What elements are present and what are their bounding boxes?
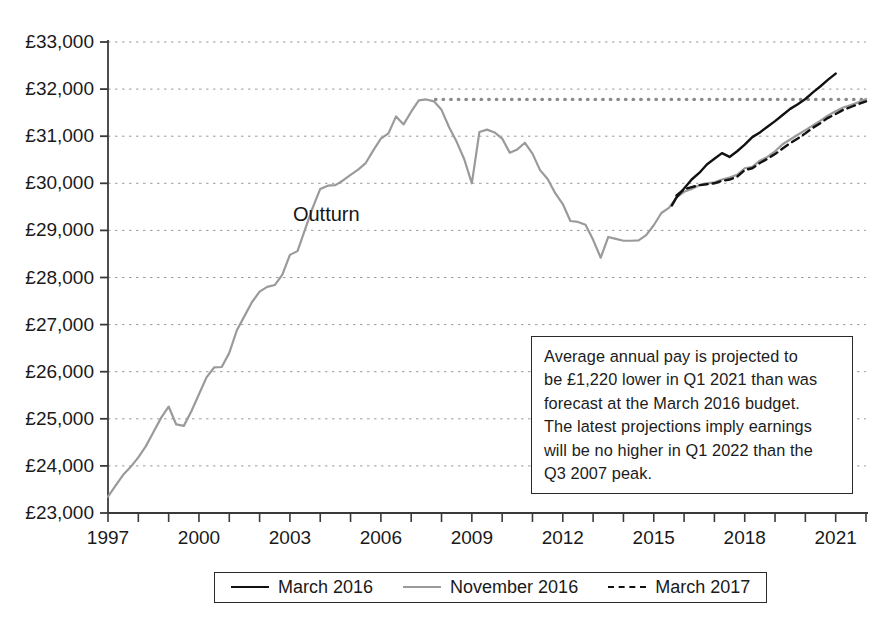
series-line-march-2017 — [677, 101, 867, 195]
y-axis-tick-label: £23,000 — [25, 502, 94, 523]
legend-line-swatch-dashed — [608, 586, 646, 588]
x-axis-tick-labels: 199720002003200620092012201520182021 — [87, 527, 857, 548]
x-axis-ticks — [108, 513, 866, 522]
y-axis-tick-label: £27,000 — [25, 314, 94, 335]
callout-line: be £1,220 lower in Q1 2021 than was — [544, 368, 842, 391]
legend-item-november-2016[interactable]: November 2016 — [403, 578, 578, 596]
legend-item-march-2017[interactable]: March 2017 — [608, 578, 750, 596]
callout-line: Average annual pay is projected to — [544, 345, 842, 368]
legend-line-swatch-solid-black — [231, 586, 269, 588]
y-axis-tick-label: £33,000 — [25, 31, 94, 52]
legend-item-march-2016[interactable]: March 2016 — [231, 578, 373, 596]
y-axis-tick-label: £32,000 — [25, 78, 94, 99]
callout-line: Q3 2007 peak. — [544, 462, 842, 485]
y-axis-tick-label: £25,000 — [25, 408, 94, 429]
legend-line-swatch-solid-gray — [403, 586, 441, 588]
x-axis-tick-label: 1997 — [87, 527, 129, 548]
x-axis-tick-label: 2018 — [724, 527, 766, 548]
chart-legend: March 2016 November 2016 March 2017 — [214, 572, 767, 603]
legend-label: March 2016 — [278, 578, 373, 596]
y-axis-tick-label: £24,000 — [25, 455, 94, 476]
x-axis-tick-label: 2021 — [815, 527, 857, 548]
outturn-label: Outturn — [293, 203, 360, 225]
outturn-annotation: Outturn — [293, 203, 360, 225]
x-axis-tick-label: 2015 — [633, 527, 675, 548]
x-axis-tick-label: 2006 — [360, 527, 402, 548]
x-axis-tick-label: 2000 — [178, 527, 220, 548]
y-axis-tick-label: £30,000 — [25, 172, 94, 193]
projection-callout-box: Average annual pay is projected to be £1… — [531, 336, 853, 494]
y-axis-tick-label: £29,000 — [25, 219, 94, 240]
callout-line: The latest projections imply earnings — [544, 415, 842, 438]
y-axis-tick-label: £31,000 — [25, 125, 94, 146]
chart-container: £33,000£32,000£31,000£30,000£29,000£28,0… — [0, 0, 892, 631]
x-axis-tick-label: 2009 — [451, 527, 493, 548]
x-axis-tick-label: 2012 — [542, 527, 584, 548]
line-chart-plot: £33,000£32,000£31,000£30,000£29,000£28,0… — [0, 0, 892, 631]
y-axis-tick-label: £26,000 — [25, 361, 94, 382]
x-axis-tick-label: 2003 — [269, 527, 311, 548]
callout-line: forecast at the March 2016 budget. — [544, 392, 842, 415]
legend-label: November 2016 — [450, 578, 578, 596]
y-axis-ticks — [100, 42, 108, 513]
legend-label: March 2017 — [655, 578, 750, 596]
y-axis-tick-label: £28,000 — [25, 267, 94, 288]
y-axis-tick-labels: £33,000£32,000£31,000£30,000£29,000£28,0… — [25, 31, 94, 523]
callout-line: will be no higher in Q1 2022 than the — [544, 439, 842, 462]
